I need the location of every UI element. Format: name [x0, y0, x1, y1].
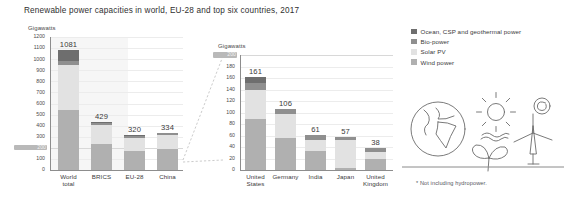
bar-segment	[58, 65, 79, 110]
bar-column[interactable]	[335, 137, 356, 170]
legend-item-label: Bio-power	[421, 38, 450, 45]
bar-segment	[275, 138, 296, 170]
y-axis-tick-label: 700	[14, 90, 45, 95]
legend-item-label: Solar PV	[421, 48, 446, 55]
bar-segment	[157, 135, 178, 150]
bar-segment	[124, 138, 145, 151]
wind-turbine-icon	[514, 114, 552, 164]
sun-icon	[477, 93, 516, 132]
bar-column[interactable]	[275, 109, 296, 170]
infographic-figure: Renewable power capacities in world, EU-…	[0, 0, 569, 199]
y-axis-tick-label: 200	[213, 52, 237, 57]
bar-value-label: 106	[265, 99, 306, 108]
y-axis-tick-label: 40	[213, 144, 235, 149]
bar-segment	[365, 152, 386, 159]
bar-value-label: 38	[355, 138, 396, 147]
y-axis-tick-label: 1100	[14, 45, 45, 50]
bar-value-label: 161	[235, 67, 276, 76]
gridline	[50, 37, 183, 38]
bar-segment	[305, 140, 326, 151]
x-axis-category-label: UnitedKingdom	[356, 174, 395, 187]
bar-value-label: 57	[325, 127, 366, 136]
y-axis-tick-label: 140	[213, 87, 235, 92]
y-axis-tick-label: 0	[213, 167, 235, 172]
bar-column[interactable]	[245, 77, 266, 170]
y-axis-tick-label: 100	[213, 110, 235, 115]
y-axis-tick-label: 20	[213, 156, 235, 161]
bar-segment	[305, 151, 326, 170]
y-axis-tick-label: 80	[213, 121, 235, 126]
y-axis-tick-label: 800	[14, 79, 45, 84]
legend-item-ocean-csp-geothermal[interactable]: Ocean, CSP and geothermal power	[411, 28, 563, 35]
spiral-geothermal-icon	[534, 98, 550, 114]
y-axis-tick-label: 180	[213, 64, 235, 69]
y-axis-tick-label: 120	[213, 98, 235, 103]
y-axis-title: Gigawatts	[28, 25, 56, 31]
legend-swatch-icon	[411, 39, 417, 45]
legend-item-label: Wind power	[421, 59, 455, 66]
bar-segment	[245, 119, 266, 170]
legend-item-solar-pv[interactable]: Solar PV	[411, 48, 563, 55]
bar-segment	[157, 149, 178, 170]
waves-icon	[481, 133, 509, 141]
bar-segment	[91, 144, 112, 170]
bar-segment	[275, 114, 296, 138]
bar-segment	[335, 140, 356, 168]
bar-segment	[365, 159, 386, 170]
y-axis-tick-label: 100	[14, 156, 45, 161]
bar-segment	[58, 110, 79, 170]
gridline	[240, 55, 393, 56]
bar-segment	[58, 50, 79, 61]
y-axis-tick-label: 500	[14, 112, 45, 117]
legend-item-bio-power[interactable]: Bio-power	[411, 38, 563, 45]
bar-column[interactable]	[157, 133, 178, 170]
x-axis-category-label: China	[148, 174, 187, 181]
page-title: Renewable power capacities in world, EU-…	[24, 6, 299, 15]
bar-value-label: 429	[81, 112, 122, 121]
bar-segment	[91, 125, 112, 144]
bar-segment	[245, 90, 266, 119]
y-axis-tick-label: 1000	[14, 57, 45, 62]
legend-item-label: Ocean, CSP and geothermal power	[421, 28, 522, 35]
bar-column[interactable]	[365, 148, 386, 170]
y-axis-tick-label: 300	[14, 134, 45, 139]
legend-swatch-icon	[411, 29, 417, 35]
y-axis-tick-label: 200	[14, 145, 47, 150]
bar-column[interactable]	[305, 135, 326, 170]
y-axis-tick-label: 900	[14, 68, 45, 73]
x-axis-line	[50, 170, 183, 171]
globe-icon	[411, 102, 465, 156]
footnote-text: * Not including hydropower.	[416, 180, 487, 186]
world-capacity-chart: Gigawatts0100200300400500600700800900100…	[14, 34, 189, 199]
countries-capacity-chart: Gigawatts020406080100120140160180200161U…	[213, 52, 399, 199]
y-axis-tick-label: 1200	[14, 34, 45, 39]
legend-item-wind-power[interactable]: Wind power	[411, 59, 563, 66]
bar-column[interactable]	[58, 50, 79, 170]
bar-segment	[124, 151, 145, 170]
x-axis-line	[240, 170, 393, 171]
legend-swatch-icon	[411, 49, 417, 55]
y-axis-tick-label: 0	[14, 167, 45, 172]
y-axis-tick-label: 60	[213, 133, 235, 138]
y-axis-tick-label: 600	[14, 101, 45, 106]
chart-legend: Ocean, CSP and geothermal power Bio-powe…	[411, 28, 563, 69]
y-axis-tick-label: 400	[14, 123, 45, 128]
y-axis-line	[50, 37, 51, 170]
bar-value-label: 334	[147, 123, 188, 132]
bar-column[interactable]	[124, 135, 145, 170]
bar-segment	[245, 83, 266, 90]
renewable-energy-illustration	[402, 92, 564, 172]
bar-segment	[335, 168, 356, 170]
bar-column[interactable]	[91, 122, 112, 170]
legend-swatch-icon	[411, 59, 417, 65]
bar-value-label: 1081	[48, 40, 89, 49]
y-axis-title: Gigawatts	[218, 43, 246, 49]
y-axis-tick-label: 160	[213, 75, 235, 80]
